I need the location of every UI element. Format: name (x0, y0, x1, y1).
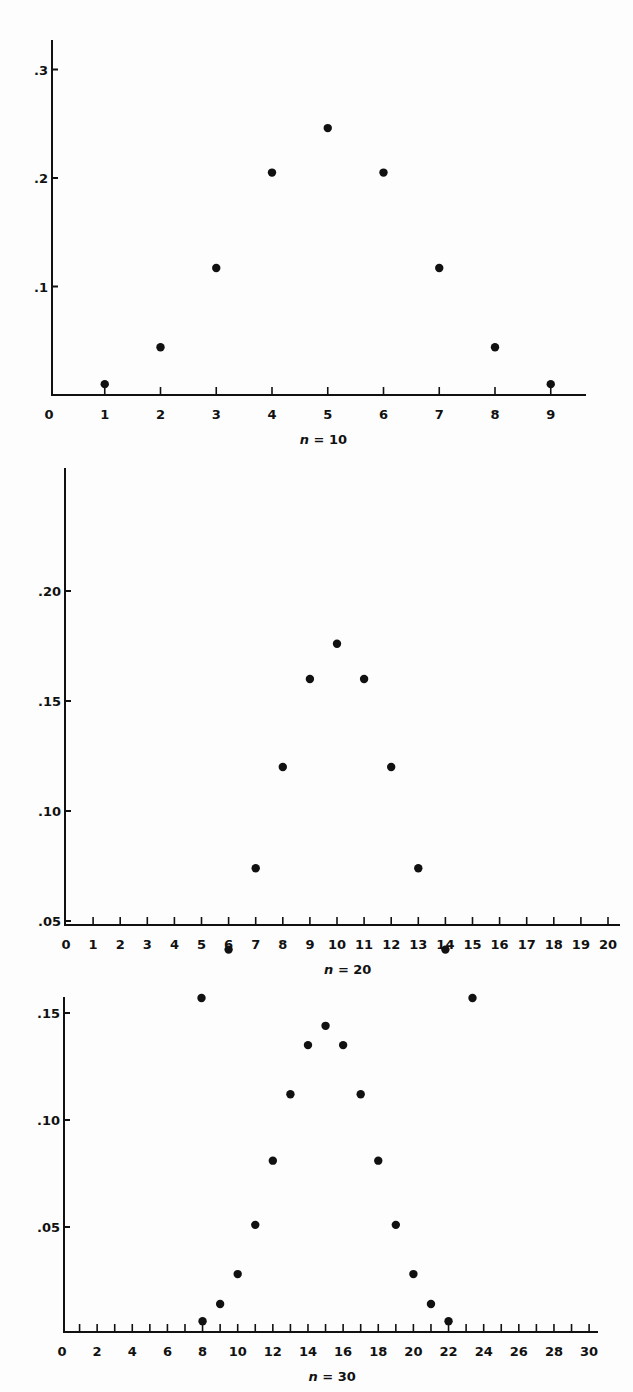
chart-panel-2: .05.10.15.200123456789101112131415161718… (38, 468, 620, 1002)
data-point (269, 1156, 277, 1164)
x-tick-label: 3 (143, 937, 152, 952)
data-point (198, 1317, 206, 1325)
data-point (304, 1041, 312, 1049)
x-tick-label: 16 (491, 937, 509, 952)
x-tick-label: 19 (572, 937, 590, 952)
data-point (252, 864, 260, 872)
x-tick-label: 12 (382, 937, 400, 952)
x-tick-label: 4 (267, 407, 276, 422)
x-tick-label: 7 (251, 937, 260, 952)
data-point (279, 763, 287, 771)
data-point (321, 1022, 329, 1030)
data-point (379, 168, 387, 176)
x-tick-label: 1 (89, 937, 98, 952)
x-tick-label: 2 (93, 1344, 102, 1359)
data-point (224, 945, 232, 953)
data-point (427, 1300, 435, 1308)
data-point (216, 1300, 224, 1308)
data-point (339, 1041, 347, 1049)
x-tick-label: 4 (170, 937, 179, 952)
x-tick-label: 14 (299, 1344, 317, 1359)
data-point (268, 168, 276, 176)
data-point (360, 675, 368, 683)
y-tick-label: .3 (34, 63, 48, 78)
x-tick-label: 7 (435, 407, 444, 422)
x-tick-label: 9 (305, 937, 314, 952)
data-point (387, 763, 395, 771)
data-point (374, 1156, 382, 1164)
chart-caption: n = 10 (300, 432, 347, 447)
x-tick-label: 1 (100, 407, 109, 422)
x-tick-label: 13 (409, 937, 427, 952)
chart-panel-1: .1.2.30123456789n = 10 (34, 40, 586, 447)
x-tick-label: 0 (57, 1344, 66, 1359)
data-point (491, 343, 499, 351)
y-tick-label: .15 (38, 694, 61, 709)
x-tick-label: 10 (328, 937, 346, 952)
y-tick-label: .2 (34, 171, 48, 186)
data-point (441, 945, 449, 953)
x-tick-label: 0 (61, 937, 70, 952)
data-point (156, 343, 164, 351)
x-tick-label: 2 (156, 407, 165, 422)
chart-panel-3: .05.10.15024681012141618202224262830n = … (37, 997, 598, 1384)
chart-caption: n = 30 (309, 1369, 356, 1384)
data-point (409, 1270, 417, 1278)
x-tick-label: 5 (323, 407, 332, 422)
x-tick-label: 17 (518, 937, 536, 952)
x-tick-label: 22 (439, 1344, 457, 1359)
x-tick-label: 9 (546, 407, 555, 422)
y-tick-label: .10 (37, 1113, 60, 1128)
data-point (251, 1221, 259, 1229)
y-tick-label: .05 (38, 914, 61, 929)
x-tick-label: 24 (475, 1344, 493, 1359)
data-point (212, 264, 220, 272)
chart-caption: n = 20 (324, 962, 371, 977)
binomial-distribution-charts: .1.2.30123456789n = 10.05.10.15.20012345… (0, 0, 633, 1392)
data-point (356, 1090, 364, 1098)
data-point (333, 640, 341, 648)
y-tick-label: .15 (37, 1006, 60, 1021)
data-point (547, 380, 555, 388)
y-tick-label: .20 (38, 584, 61, 599)
data-point (306, 675, 314, 683)
x-tick-label: 8 (198, 1344, 207, 1359)
y-tick-label: .10 (38, 804, 61, 819)
x-tick-label: 16 (334, 1344, 352, 1359)
x-tick-label: 4 (128, 1344, 137, 1359)
data-point (197, 994, 205, 1002)
y-tick-label: .05 (37, 1220, 60, 1235)
data-point (324, 124, 332, 132)
data-point (444, 1317, 452, 1325)
x-tick-label: 0 (44, 407, 53, 422)
x-tick-label: 10 (229, 1344, 247, 1359)
x-tick-label: 30 (580, 1344, 598, 1359)
x-tick-label: 20 (599, 937, 617, 952)
y-tick-label: .1 (34, 280, 48, 295)
x-tick-label: 8 (278, 937, 287, 952)
data-point (234, 1270, 242, 1278)
x-tick-label: 18 (545, 937, 563, 952)
x-tick-label: 6 (163, 1344, 172, 1359)
data-point (468, 994, 476, 1002)
x-tick-label: 6 (379, 407, 388, 422)
x-tick-label: 26 (510, 1344, 528, 1359)
data-point (286, 1090, 294, 1098)
data-point (414, 864, 422, 872)
data-point (435, 264, 443, 272)
x-tick-label: 8 (490, 407, 499, 422)
x-tick-label: 15 (463, 937, 481, 952)
data-point (392, 1221, 400, 1229)
x-tick-label: 11 (355, 937, 373, 952)
x-tick-label: 20 (404, 1344, 422, 1359)
x-tick-label: 2 (116, 937, 125, 952)
x-tick-label: 28 (545, 1344, 563, 1359)
x-tick-label: 5 (197, 937, 206, 952)
x-tick-label: 3 (212, 407, 221, 422)
x-tick-label: 12 (264, 1344, 282, 1359)
data-point (101, 380, 109, 388)
x-tick-label: 18 (369, 1344, 387, 1359)
